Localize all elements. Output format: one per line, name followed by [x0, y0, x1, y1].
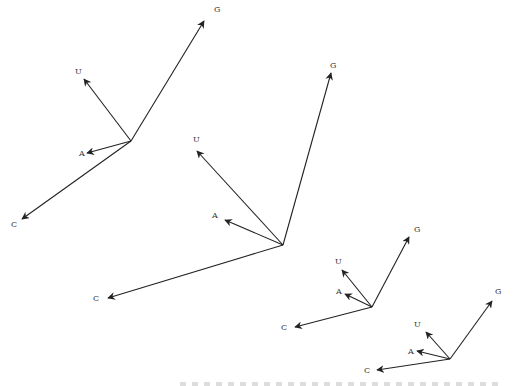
vector-label-a: A	[407, 347, 414, 356]
vector-label-a: A	[78, 149, 85, 158]
vector-arrow-u	[84, 79, 131, 141]
vector-label-g: G	[495, 287, 501, 296]
vector-label-g: G	[330, 61, 336, 70]
vector-diagram-3: GUAC	[281, 225, 420, 332]
vector-diagram-4: GUAC	[364, 287, 501, 375]
cropped-caption-text	[180, 382, 500, 386]
vector-label-a: A	[335, 287, 342, 296]
vector-arrow-c	[22, 141, 131, 219]
vector-arrow-c	[377, 359, 450, 370]
vector-diagram-canvas: GUACGUACGUACGUAC	[0, 0, 515, 386]
vector-arrow-c	[295, 307, 372, 327]
vector-arrow-g	[283, 73, 331, 245]
vector-arrow-a	[225, 220, 283, 245]
vector-diagram-2: GUAC	[93, 61, 336, 303]
vector-label-u: U	[75, 67, 82, 76]
vector-label-c: C	[281, 323, 287, 332]
vector-label-a: A	[211, 211, 218, 220]
vector-label-u: U	[335, 257, 342, 266]
vector-arrow-u	[426, 332, 450, 359]
vector-label-c: C	[364, 366, 370, 375]
vector-diagram-1: GUAC	[11, 5, 220, 229]
vector-label-u: U	[414, 320, 421, 329]
vector-arrow-u	[197, 151, 283, 245]
vector-arrow-a	[417, 351, 450, 359]
vector-label-g: G	[414, 225, 420, 234]
vector-label-c: C	[93, 294, 99, 303]
vector-arrow-a	[87, 141, 131, 153]
vector-arrow-c	[108, 245, 283, 298]
vector-label-c: C	[11, 220, 17, 229]
vector-label-u: U	[193, 135, 200, 144]
vector-arrow-u	[342, 270, 372, 307]
vector-arrow-g	[131, 21, 204, 141]
vector-label-g: G	[214, 5, 220, 14]
vector-arrow-g	[372, 237, 409, 307]
vector-arrow-a	[345, 294, 372, 307]
vector-arrow-g	[450, 301, 492, 359]
